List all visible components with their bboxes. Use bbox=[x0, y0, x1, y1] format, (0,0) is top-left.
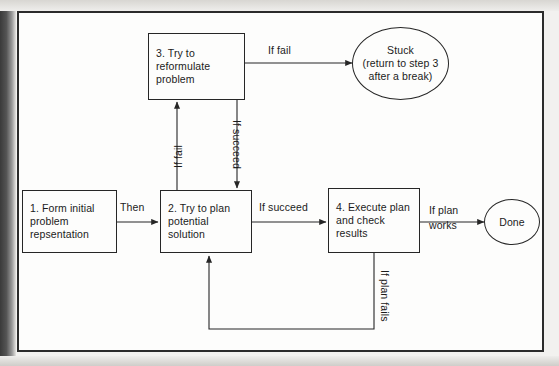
node-done-line1: Done bbox=[485, 216, 539, 229]
node-step3-line1: 3. Try to bbox=[156, 47, 210, 60]
node-done-label: Done bbox=[485, 216, 539, 229]
edge-label-then: Then bbox=[120, 201, 144, 213]
edge-label-if-plan-fails: If plan fails bbox=[379, 270, 391, 322]
node-step3-label: 3. Try to reformulate problem bbox=[156, 47, 210, 86]
node-step3-line2: reformulate bbox=[156, 60, 210, 73]
node-step1-line2: problem bbox=[30, 215, 95, 228]
node-step1-line1: 1. Form initial bbox=[30, 202, 95, 215]
node-stuck-label: Stuck (return to step 3 after a break) bbox=[353, 44, 448, 83]
node-step2-line3: solution bbox=[168, 228, 230, 241]
node-step3[interactable]: 3. Try to reformulate problem bbox=[148, 33, 245, 100]
node-step4[interactable]: 4. Execute plan and check results bbox=[328, 188, 420, 253]
edge-step4-to-step2-feedback bbox=[209, 253, 374, 329]
edge-label-if-plan-works-line1: If plan bbox=[429, 203, 458, 218]
node-step3-line3: problem bbox=[156, 73, 210, 86]
node-stuck-line3: after a break) bbox=[353, 70, 448, 83]
edge-label-if-fail-vertical: If fail bbox=[172, 145, 184, 168]
edge-label-if-succeed-horizontal: If succeed bbox=[259, 201, 308, 213]
node-step4-line2: and check bbox=[336, 214, 410, 227]
flowchart-page: 1. Form initial problem repsentation 2. … bbox=[0, 0, 559, 366]
node-step1[interactable]: 1. Form initial problem repsentation bbox=[22, 190, 117, 253]
node-step1-label: 1. Form initial problem repsentation bbox=[30, 202, 95, 241]
node-step2-line1: 2. Try to plan bbox=[168, 202, 230, 215]
node-step2-line2: potential bbox=[168, 215, 230, 228]
edge-label-if-fail-horizontal: If fail bbox=[268, 44, 291, 56]
node-step2[interactable]: 2. Try to plan potential solution bbox=[160, 190, 252, 253]
edge-label-if-succeed-vertical: If succeed bbox=[231, 120, 243, 169]
node-stuck-line1: Stuck bbox=[353, 44, 448, 57]
node-stuck-line2: (return to step 3 bbox=[353, 57, 448, 70]
edge-label-if-plan-works-line2: works bbox=[429, 218, 458, 233]
node-step4-line3: results bbox=[336, 227, 410, 240]
node-stuck[interactable]: Stuck (return to step 3 after a break) bbox=[352, 27, 449, 100]
node-step2-label: 2. Try to plan potential solution bbox=[168, 202, 230, 241]
node-done[interactable]: Done bbox=[484, 199, 540, 245]
node-step1-line3: repsentation bbox=[30, 228, 95, 241]
node-step4-label: 4. Execute plan and check results bbox=[336, 201, 410, 240]
edge-label-if-plan-works: If plan works bbox=[429, 203, 458, 233]
node-step4-line1: 4. Execute plan bbox=[336, 201, 410, 214]
